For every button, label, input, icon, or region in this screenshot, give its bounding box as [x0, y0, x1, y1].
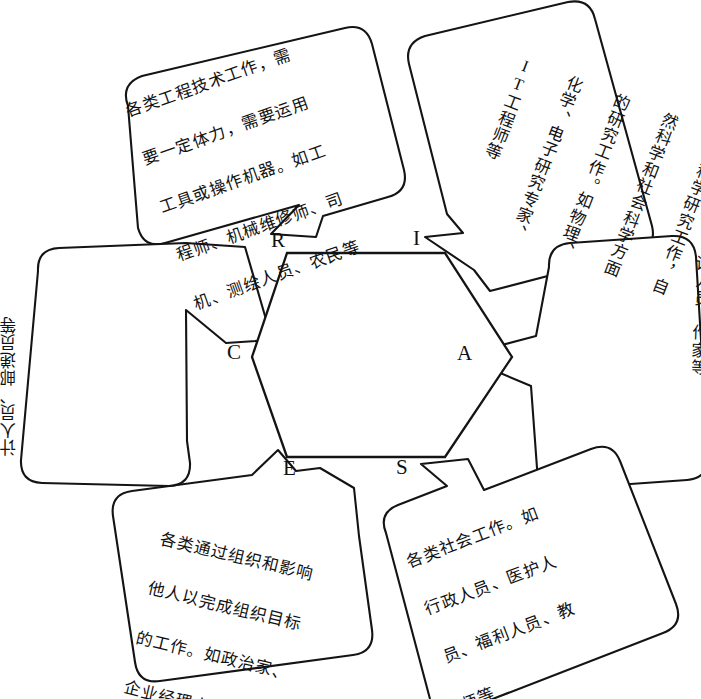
callout-line: 计人员、邮递员等: [1, 264, 18, 457]
callout-text-C: 各类有规律的、固定 的工作。如办公室人 员，秘书和文书管 理员、保管员、会计、审…: [0, 264, 52, 457]
vertex-label-C: C: [227, 340, 241, 365]
callout-line: 的工作。如政治家、: [134, 629, 291, 682]
callout-line: 他人以完成组织目标: [146, 580, 303, 633]
riasec-diagram: R I A S E C 各类工程技术工作，需 要一定体力，需要运用 工具或操作机…: [0, 0, 701, 699]
vertex-label-A: A: [457, 341, 472, 366]
vertex-label-E: E: [283, 456, 296, 481]
callout-line: 企业经理人、推销人: [122, 679, 279, 699]
vertex-label-I: I: [413, 226, 420, 251]
callout-line: 员、福利人员、教: [441, 600, 578, 666]
callout-text-A: 各类艺术创作工作，如 节目主持人、演员、书 法家、摄影家、家装设 计人员、作家等: [652, 252, 701, 437]
callout-line: 各类社会工作。如: [404, 505, 541, 571]
callout-line: 计人员、作家等: [686, 253, 701, 429]
vertex-label-S: S: [396, 455, 408, 480]
callout-line: 各类通过组织和影响: [158, 530, 315, 583]
callout-line: 行政人员、医护人: [422, 552, 559, 618]
callout-line: 师等: [459, 647, 596, 699]
